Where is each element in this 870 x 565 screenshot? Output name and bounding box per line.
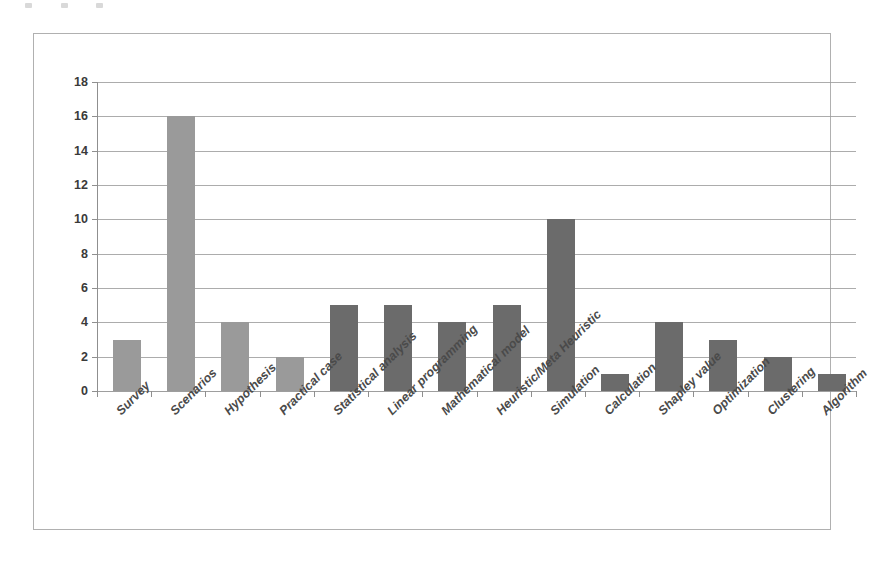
x-axis-tick-mark	[802, 391, 803, 397]
chart-frame: 181614121086420 SurveyScenariosHypothesi…	[33, 33, 831, 530]
gridline	[97, 288, 856, 289]
x-axis-tick-mark	[368, 391, 369, 397]
gridline	[97, 357, 856, 358]
gridline	[97, 322, 856, 323]
y-axis-tick-label: 12	[48, 179, 88, 192]
plot-area	[97, 82, 856, 391]
gridline	[97, 185, 856, 186]
x-axis-tick-mark	[205, 391, 206, 397]
y-axis-tick-label: 14	[48, 145, 88, 158]
x-axis-tick-mark	[531, 391, 532, 397]
y-axis-tick-mark	[92, 322, 98, 323]
bar	[764, 357, 792, 391]
x-axis-tick-mark	[639, 391, 640, 397]
y-axis-tick-label: 10	[48, 213, 88, 226]
scan-artifact-strip	[0, 0, 859, 16]
x-axis-tick-mark	[97, 391, 98, 397]
x-axis-tick-mark	[748, 391, 749, 397]
x-axis-tick-mark	[422, 391, 423, 397]
gridline	[97, 219, 856, 220]
y-axis-tick-label: 18	[48, 76, 88, 89]
y-axis-tick-mark	[92, 288, 98, 289]
bar	[709, 340, 737, 392]
x-axis-tick-mark	[260, 391, 261, 397]
bar	[438, 322, 466, 391]
y-axis-tick-mark	[92, 116, 98, 117]
bar	[818, 374, 846, 391]
bar	[384, 305, 412, 391]
bar	[167, 116, 195, 391]
gridline	[97, 116, 856, 117]
y-axis-tick-labels: 181614121086420	[44, 34, 88, 531]
bar	[330, 305, 358, 391]
bar	[221, 322, 249, 391]
gridline	[97, 254, 856, 255]
scan-artifact-mark	[25, 3, 32, 8]
bar	[601, 374, 629, 391]
x-axis-tick-mark	[477, 391, 478, 397]
y-axis-tick-label: 16	[48, 110, 88, 123]
x-axis-tick-mark	[151, 391, 152, 397]
y-axis-tick-label: 4	[48, 316, 88, 329]
y-axis-tick-mark	[92, 151, 98, 152]
x-axis-tick-mark	[585, 391, 586, 397]
bar	[655, 322, 683, 391]
x-axis-tick-mark	[314, 391, 315, 397]
x-axis-tick-mark	[856, 391, 857, 397]
y-axis-tick-label: 6	[48, 282, 88, 295]
y-axis-tick-mark	[92, 82, 98, 83]
bar	[493, 305, 521, 391]
y-axis-tick-label: 8	[48, 248, 88, 261]
y-axis-tick-mark	[92, 254, 98, 255]
bar	[276, 357, 304, 391]
bar	[547, 219, 575, 391]
y-axis-tick-mark	[92, 219, 98, 220]
gridline	[97, 82, 856, 83]
y-axis-tick-label: 2	[48, 351, 88, 364]
scan-artifact-mark	[96, 3, 103, 8]
scan-artifact-mark	[61, 3, 68, 8]
y-axis-tick-mark	[92, 185, 98, 186]
y-axis-tick-label: 0	[48, 385, 88, 398]
gridline	[97, 151, 856, 152]
y-axis-tick-mark	[92, 357, 98, 358]
bar	[113, 340, 141, 392]
x-axis-tick-mark	[693, 391, 694, 397]
